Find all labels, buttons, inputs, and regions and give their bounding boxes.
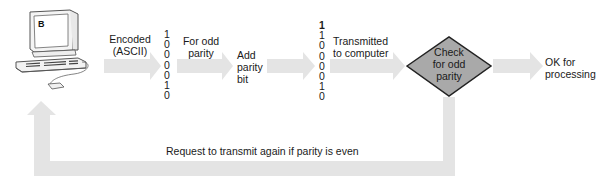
odd-parity-line1: For odd xyxy=(183,35,219,47)
ok-label: OK for processing xyxy=(545,56,596,80)
decision-line3: parity xyxy=(436,70,462,82)
decision-line1: Check xyxy=(434,46,464,58)
arrow-feedback-loop xyxy=(27,97,455,176)
parity-bit: 0 xyxy=(317,91,327,101)
ok-line1: OK for xyxy=(545,56,575,68)
add-parity-label: Add parity bit xyxy=(237,49,263,85)
encoded-line2: (ASCII) xyxy=(113,45,147,57)
add-parity-line1: Add xyxy=(237,49,256,61)
screen-letter: B xyxy=(38,19,45,29)
encoded-label: Encoded (ASCII) xyxy=(107,33,153,57)
decision-line2: for odd xyxy=(433,58,466,70)
ok-line2: processing xyxy=(545,68,596,80)
add-parity-line3: bit xyxy=(237,73,248,85)
ascii-bits: 1 0 0 0 0 1 0 xyxy=(162,29,172,100)
odd-parity-label: For odd parity xyxy=(180,35,222,59)
feedback-label: Request to transmit again if parity is e… xyxy=(166,145,359,157)
parity-bits: 1 1 0 0 0 0 1 0 xyxy=(317,20,327,102)
arrow-ok xyxy=(493,52,543,80)
arrow-add-bit xyxy=(267,52,315,80)
odd-parity-line2: parity xyxy=(188,47,214,59)
add-parity-line2: parity xyxy=(237,61,263,73)
ascii-bit: 0 xyxy=(162,90,172,100)
computer-icon xyxy=(16,10,88,89)
transmitted-line1: Transmitted xyxy=(333,35,388,47)
decision-label: Check for odd parity xyxy=(421,46,477,82)
encoded-line1: Encoded xyxy=(109,33,150,45)
transmitted-line2: to computer xyxy=(333,47,388,59)
transmitted-label: Transmitted to computer xyxy=(333,35,388,59)
